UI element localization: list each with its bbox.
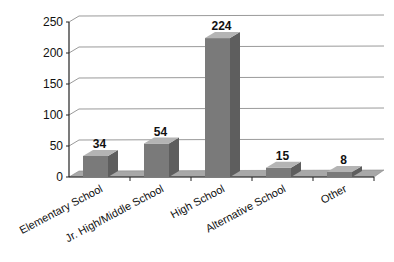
bar-side [230, 32, 240, 177]
data-label: 54 [154, 125, 168, 139]
y-tick-label: 200 [43, 46, 63, 60]
data-label: 8 [340, 153, 347, 167]
x-tick-label: Other [319, 182, 349, 206]
chart-canvas: 0501001502002503454224158Elementary Scho… [0, 0, 394, 262]
x-tick-label: High School [168, 182, 226, 220]
data-label: 34 [93, 137, 107, 151]
bars: 3454224158 [83, 19, 374, 181]
bar-front [266, 168, 291, 177]
y-tick-label: 50 [50, 139, 64, 153]
bar-front [205, 38, 230, 177]
bar-chart: 0501001502002503454224158Elementary Scho… [0, 0, 394, 262]
y-tick-label: 0 [56, 170, 63, 184]
bar-side [169, 138, 179, 177]
x-tick-label: Jr. High/Middle School [63, 182, 165, 244]
x-tick-labels: Elementary SchoolJr. High/Middle SchoolH… [17, 182, 348, 244]
data-label: 224 [211, 19, 231, 33]
y-tick-label: 100 [43, 108, 63, 122]
y-tick-labels: 050100150200250 [43, 15, 69, 184]
bar-front [327, 172, 352, 177]
bar-high-school: 224 [205, 19, 252, 181]
bar-front [144, 144, 169, 177]
y-tick-label: 150 [43, 77, 63, 91]
bar-front [83, 156, 108, 177]
data-label: 15 [276, 149, 290, 163]
y-tick-label: 250 [43, 15, 63, 29]
